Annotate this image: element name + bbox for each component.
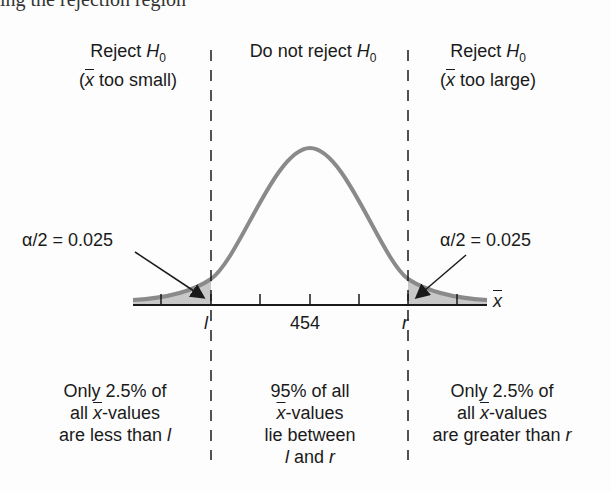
left-critical-value: l [204, 312, 208, 334]
left-region-description: Only 2.5% of all x-values are less than … [40, 380, 190, 446]
center-value: 454 [290, 312, 320, 334]
right-alpha-arrow [417, 255, 466, 297]
axis-variable-label: x [493, 290, 502, 312]
right-alpha-label: α/2 = 0.025 [440, 229, 531, 251]
right-reject-label: Reject H0 (x too large) [418, 40, 558, 91]
right-critical-value: r [402, 312, 408, 334]
middle-region-description: 95% of all x-values lie between l and r [240, 380, 380, 468]
middle-accept-label: Do not reject H0 [228, 40, 398, 69]
left-alpha-label: α/2 = 0.025 [22, 229, 113, 251]
left-alpha-arrow [135, 252, 203, 297]
normal-curve [133, 148, 487, 300]
left-reject-label: Reject H0 (x too small) [58, 40, 198, 91]
right-region-description: Only 2.5% of all x-values are greater th… [412, 380, 592, 446]
